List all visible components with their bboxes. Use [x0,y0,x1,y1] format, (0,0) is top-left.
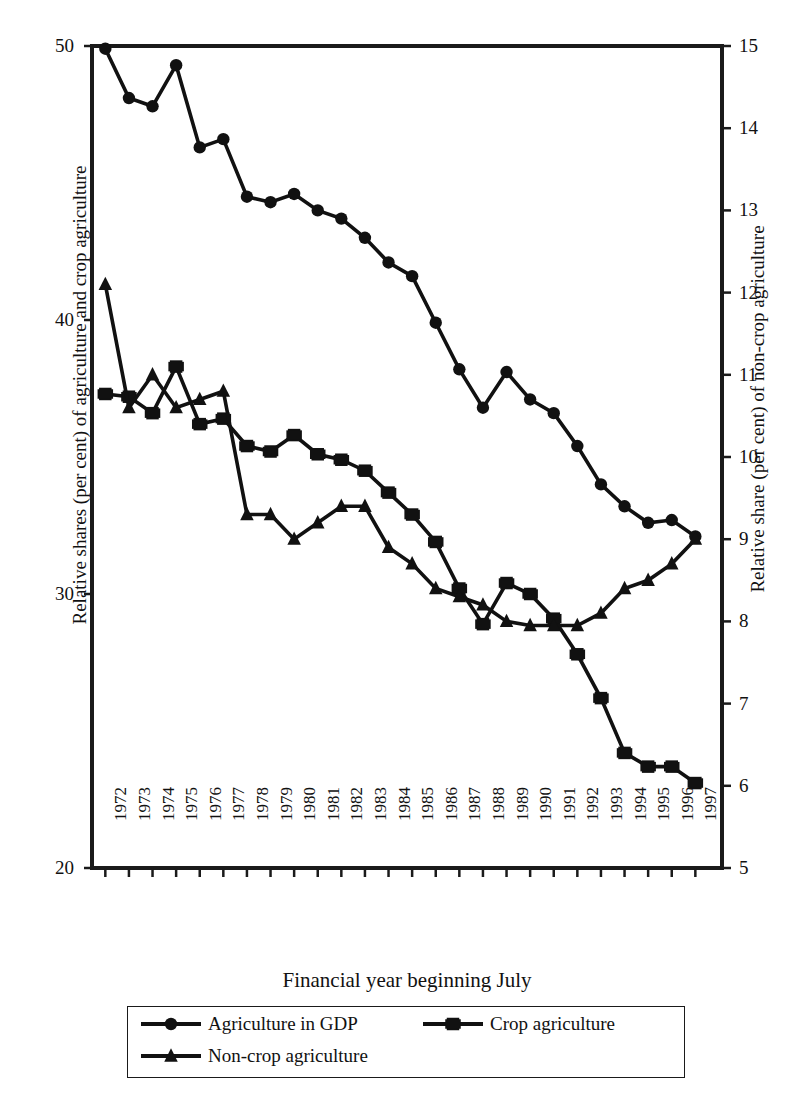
x-axis-tick-label: 1997 [702,787,719,877]
x-axis-tick-label: 1993 [608,787,625,877]
data-point-square-icon [239,441,255,451]
data-point-circle-icon [170,59,182,71]
y-axis-right-tick-label: 8 [739,611,779,630]
data-point-triangle-icon [217,383,231,396]
legend-item-crop-agriculture: Crop agriculture [421,1013,615,1035]
data-point-square-icon [192,419,208,429]
y-axis-right-tick-label: 15 [739,36,779,55]
data-point-square-icon [570,650,586,660]
legend-key-triangle-icon [139,1046,203,1066]
x-axis-tick-label: 1987 [466,787,483,877]
data-point-circle-icon [288,188,300,200]
y-axis-left-tick-label: 50 [28,36,74,55]
y-axis-right-tick-label: 7 [739,694,779,713]
data-point-triangle-icon [405,556,419,569]
data-point-circle-icon [99,43,111,55]
data-point-circle-icon [406,270,418,282]
data-point-circle-icon [524,393,536,405]
x-axis-tick-label: 1995 [655,787,672,877]
data-point-square-icon [357,466,373,476]
data-point-triangle-icon [500,614,513,627]
x-axis-tick-label: 1972 [112,787,129,877]
data-point-circle-icon [666,514,678,526]
data-point-circle-icon [312,204,324,216]
y-axis-right-tick-label: 14 [739,118,779,137]
plot-area [0,0,812,1108]
data-point-circle-icon [382,256,394,268]
data-point-circle-icon [642,517,654,529]
legend-key-circle-icon [139,1014,203,1034]
x-axis-tick-label: 1975 [183,787,200,877]
data-point-circle-icon [618,500,630,512]
x-axis-tick-label: 1980 [301,787,318,877]
legend-item-non-crop-agriculture: Non-crop agriculture [139,1045,368,1067]
legend-label: Non-crop agriculture [208,1045,368,1067]
data-point-square-icon [168,362,184,372]
x-axis-tick-label: 1986 [443,787,460,877]
x-axis-tick-label: 1985 [419,787,436,877]
data-point-square-icon [499,578,515,588]
x-axis-tick-label: 1976 [207,787,224,877]
data-point-circle-icon [123,92,135,104]
data-point-square-icon [98,389,114,399]
x-axis-tick-label: 1996 [679,787,696,877]
x-axis-tick-label: 1992 [584,787,601,877]
data-point-square-icon [381,488,397,498]
y-axis-right-tick-label: 10 [739,447,779,466]
data-point-square-icon [522,589,538,599]
series-agriculture-in-gdp [99,43,701,543]
data-point-square-icon [640,762,656,772]
data-point-circle-icon [430,317,442,329]
data-point-triangle-icon [99,277,113,290]
x-axis-tick-label: 1983 [372,787,389,877]
data-point-circle-icon [500,366,512,378]
y-axis-right-tick-label: 6 [739,776,779,795]
x-axis-tick-label: 1981 [325,787,342,877]
x-axis-tick-label: 1988 [490,787,507,877]
data-point-square-icon [428,537,444,547]
data-point-circle-icon [165,1018,177,1030]
legend-label: Agriculture in GDP [208,1013,358,1035]
data-point-circle-icon [595,478,607,490]
data-point-square-icon [334,455,350,465]
data-point-square-icon [664,762,680,772]
x-axis-tick-label: 1974 [160,787,177,877]
x-axis-tick-label: 1978 [254,787,271,877]
data-point-triangle-icon [641,573,655,586]
series-line [105,49,695,537]
y-axis-left-tick-label: 20 [28,858,74,877]
x-axis-tick-label: 1973 [136,787,153,877]
data-point-circle-icon [571,440,583,452]
x-axis-tick-label: 1979 [278,787,295,877]
data-point-circle-icon [217,133,229,145]
data-point-circle-icon [453,363,465,375]
data-point-square-icon [145,408,161,418]
x-axis-tick-label: 1989 [514,787,531,877]
data-point-triangle-icon [311,515,325,528]
data-point-circle-icon [264,196,276,208]
data-point-circle-icon [241,191,253,203]
data-point-square-icon [593,693,609,703]
y-axis-right-tick-label: 13 [739,200,779,219]
data-point-square-icon [445,1019,461,1029]
data-point-square-icon [404,510,420,520]
data-point-square-icon [617,748,633,758]
chart-legend: Agriculture in GDP Crop agriculture Non-… [127,1006,685,1078]
y-axis-right-tick-label: 11 [739,365,779,384]
x-axis-tick-label: 1991 [561,787,578,877]
data-point-circle-icon [194,141,206,153]
data-point-square-icon [475,619,491,629]
x-axis-tick-label: 1994 [632,787,649,877]
series-crop-agriculture [98,360,704,789]
data-point-square-icon [310,450,326,460]
x-axis-tick-label: 1990 [537,787,554,877]
y-axis-left-tick-label: 40 [28,310,74,329]
data-point-circle-icon [335,212,347,224]
y-axis-right-tick-label: 5 [739,858,779,877]
plot-frame [92,46,722,868]
x-axis-tick-label: 1982 [348,787,365,877]
chart-figure: Relative shares (per cent) of agricultur… [0,0,812,1108]
data-point-circle-icon [548,407,560,419]
data-point-circle-icon [146,100,158,112]
data-point-square-icon [286,430,302,440]
